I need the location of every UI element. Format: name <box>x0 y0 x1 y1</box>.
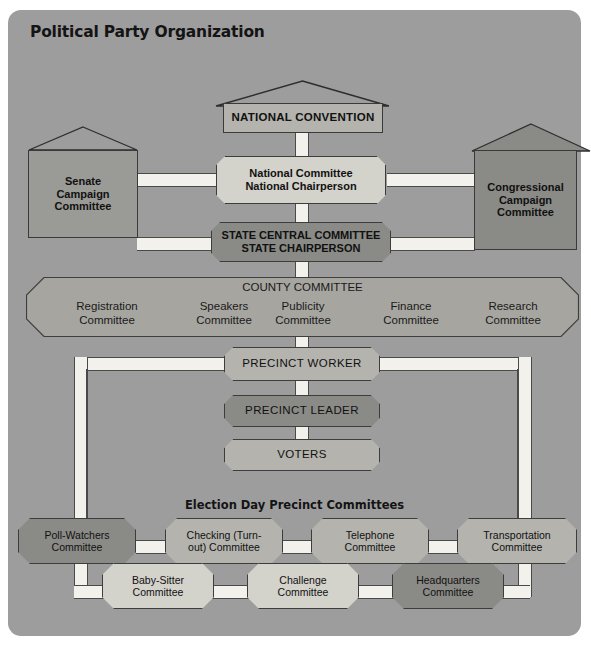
node-senate-campaign-committee[interactable]: Senate Campaign Committee <box>28 150 138 238</box>
node-label-line1: Challenge <box>279 574 326 586</box>
subcommittee-line1: Finance <box>356 299 466 313</box>
node-label-line1: Headquarters <box>416 574 480 586</box>
subcommittee-line2: Committee <box>458 313 568 327</box>
connector-senate-to-national <box>137 173 227 187</box>
page-title: Political Party Organization <box>30 23 265 41</box>
node-label-line2: Committee <box>52 541 103 553</box>
node-label-line1: Transportation <box>483 529 550 541</box>
node-label: VOTERS <box>277 448 327 462</box>
subcommittee-research[interactable]: Research Committee <box>458 299 568 328</box>
node-label-line1: STATE CENTRAL COMMITTEE <box>222 229 381 242</box>
subcommittee-line1: Publicity <box>248 299 358 313</box>
node-checking-turnout-committee[interactable]: Checking (Turn- out) Committee <box>165 518 283 564</box>
subcommittee-line2: Committee <box>356 313 466 327</box>
node-baby-sitter-committee[interactable]: Baby-Sitter Committee <box>102 563 214 609</box>
node-label: NATIONAL CONVENTION <box>232 111 375 125</box>
subcommittee-registration[interactable]: Registration Committee <box>52 299 162 328</box>
node-label-line2: Committee <box>423 586 474 598</box>
connector-worker-right-arm <box>380 357 531 371</box>
node-state-central-committee[interactable]: STATE CENTRAL COMMITTEE STATE CHAIRPERSO… <box>211 222 391 262</box>
node-label-line1: Checking (Turn- <box>187 529 262 541</box>
node-label: PRECINCT WORKER <box>242 357 362 371</box>
connector-state-to-congressional <box>387 237 475 251</box>
node-label-line2: out) Committee <box>188 541 260 553</box>
connector-national-to-state <box>295 204 309 224</box>
diagram-card: Political Party Organization <box>8 10 581 636</box>
node-headquarters-committee[interactable]: Headquarters Committee <box>392 563 504 609</box>
subcommittee-line2: Committee <box>52 313 162 327</box>
subcommittee-line1: Registration <box>52 299 162 313</box>
subcommittee-line2: Committee <box>248 313 358 327</box>
node-label-line2: Committee <box>492 541 543 553</box>
node-label-line2: STATE CHAIRPERSON <box>242 242 361 255</box>
node-precinct-worker[interactable]: PRECINCT WORKER <box>224 347 380 381</box>
node-telephone-committee[interactable]: Telephone Committee <box>311 518 429 564</box>
subcommittee-line1: Research <box>458 299 568 313</box>
county-heading: COUNTY COMMITTEE <box>26 281 579 293</box>
connector-left-inner-rail <box>86 369 87 540</box>
senate-roof-icon <box>28 126 138 152</box>
connector-national-to-congressional <box>387 173 475 187</box>
node-label-line2: Committee <box>278 586 329 598</box>
node-label-line2: Campaign <box>499 194 552 207</box>
connector-worker-left-arm <box>74 357 225 371</box>
node-county-committee[interactable]: COUNTY COMMITTEE Registration Committee … <box>26 277 579 337</box>
node-label-line1: National Committee <box>249 167 352 180</box>
node-congressional-campaign-committee[interactable]: Congressional Campaign Committee <box>474 150 577 250</box>
congressional-roof-icon <box>471 123 591 153</box>
node-label-line1: Senate <box>65 175 101 188</box>
node-label-line2: Campaign <box>56 188 109 201</box>
node-label-line2: National Chairperson <box>245 180 356 193</box>
node-challenge-committee[interactable]: Challenge Committee <box>247 563 359 609</box>
node-label-line2: Committee <box>133 586 184 598</box>
node-label-line3: Committee <box>55 200 112 213</box>
node-label-line1: Congressional <box>487 181 563 194</box>
node-label-line1: Poll-Watchers <box>45 529 110 541</box>
node-label-line3: Committee <box>497 206 554 219</box>
node-voters[interactable]: VOTERS <box>224 439 380 471</box>
node-label-line2: Committee <box>345 541 396 553</box>
node-transportation-committee[interactable]: Transportation Committee <box>457 518 577 564</box>
node-label: PRECINCT LEADER <box>245 404 359 418</box>
connector-right-inner-rail <box>517 369 518 540</box>
node-precinct-leader[interactable]: PRECINCT LEADER <box>224 395 380 427</box>
node-national-committee[interactable]: National Committee National Chairperson <box>216 156 386 204</box>
node-label-line1: Telephone <box>346 529 394 541</box>
election-day-heading: Election Day Precinct Committees <box>8 498 581 512</box>
subcommittee-finance[interactable]: Finance Committee <box>356 299 466 328</box>
node-label-line1: Baby-Sitter <box>132 574 184 586</box>
subcommittee-publicity[interactable]: Publicity Committee <box>248 299 358 328</box>
node-poll-watchers-committee[interactable]: Poll-Watchers Committee <box>18 518 136 564</box>
node-national-convention[interactable]: NATIONAL CONVENTION <box>223 103 383 133</box>
